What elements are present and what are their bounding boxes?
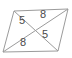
segment-label-lower-left: 8: [20, 36, 26, 48]
parallelogram-diagram: 5 8 5 8: [0, 0, 72, 58]
segment-label-lower-right: 5: [42, 28, 48, 40]
segment-label-upper-right: 8: [40, 8, 46, 20]
geometry-figure: 5 8 5 8: [0, 0, 72, 58]
segment-label-upper-left: 5: [19, 14, 25, 26]
